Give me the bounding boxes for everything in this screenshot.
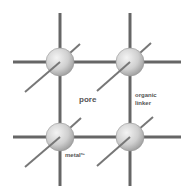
diagonal-linker-front [97,137,130,166]
organic-linker-label-line1: organic [135,92,157,98]
metal-label-superscript: n+ [81,152,85,156]
linker-grid [13,13,181,186]
pore-label: pore [79,95,97,104]
organic-linker-label-line2: linker [135,100,152,106]
diagonal-linker-front [97,62,130,91]
diagonal-linker-front [25,62,60,92]
metal-label-text: metal [65,152,81,158]
mof-diagram: pore organic linker metaln+ [0,0,192,196]
metal-label: metaln+ [65,152,85,158]
diagonal-linker-front [25,137,60,167]
